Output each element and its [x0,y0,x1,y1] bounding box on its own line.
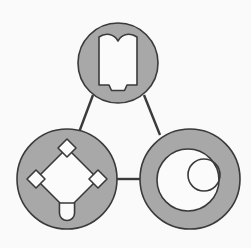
diamond-vertex-bottom-pin-icon [59,203,74,221]
diamond-node[interactable] [17,129,117,229]
book-node[interactable] [78,23,158,103]
ring-node[interactable] [140,129,240,229]
triad-diagram [0,0,251,248]
open-book-icon [99,34,137,90]
connector-top-to-bottom-left [78,95,93,135]
diagram-root [0,0,251,248]
connector-top-to-bottom-right [144,95,160,135]
